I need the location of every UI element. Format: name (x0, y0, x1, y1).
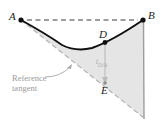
point-marker-b (140, 17, 145, 22)
point-label-a: A (9, 11, 16, 22)
point-label-b: B (148, 10, 155, 21)
tangential-deviation-label: tD/A (96, 57, 107, 68)
point-marker-a (18, 17, 23, 22)
beam-deflection-figure: A B D E Reference tangent tD/A (0, 0, 160, 123)
leader-line (45, 67, 70, 77)
vertical-line-at-b (144, 20, 145, 119)
tangential-deviation-subscript: D/A (98, 62, 107, 68)
reference-tangent-note-line2: tangent (12, 84, 46, 94)
leader-arrow-head (67, 64, 72, 69)
point-marker-d (103, 40, 108, 45)
reference-tangent-note: Reference tangent (12, 74, 46, 93)
point-label-d: D (99, 29, 107, 40)
point-label-e: E (101, 85, 108, 96)
figure-graphics (0, 0, 160, 123)
